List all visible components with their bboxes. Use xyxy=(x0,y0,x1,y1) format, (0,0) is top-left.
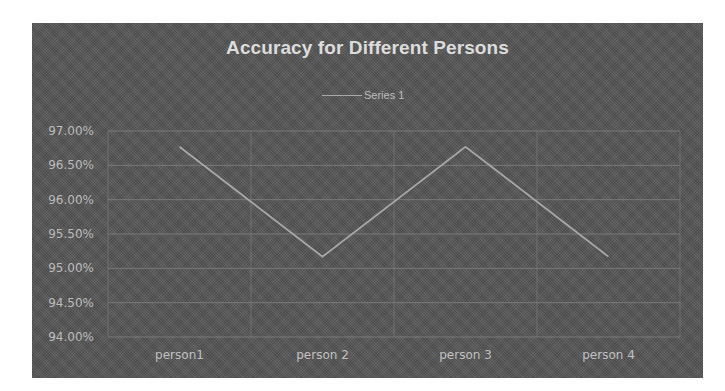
y-tick-label: 96.00% xyxy=(48,193,94,207)
x-tick-label: person1 xyxy=(155,348,204,362)
x-tick-label: person 3 xyxy=(439,348,492,362)
x-tick-label: person 4 xyxy=(582,348,635,362)
x-tick-label: person 2 xyxy=(296,348,349,362)
y-tick-label: 94.50% xyxy=(48,296,94,310)
y-tick-label: 95.00% xyxy=(48,261,94,275)
y-tick-label: 95.50% xyxy=(48,227,94,241)
y-tick-label: 94.00% xyxy=(48,330,94,344)
y-tick-label: 96.50% xyxy=(48,158,94,172)
y-tick-label: 97.00% xyxy=(48,124,94,138)
chart-container: Accuracy for Different Persons Series 1 … xyxy=(32,23,703,378)
plot-area: 97.00%96.50%96.00%95.50%95.00%94.50%94.0… xyxy=(32,23,703,378)
